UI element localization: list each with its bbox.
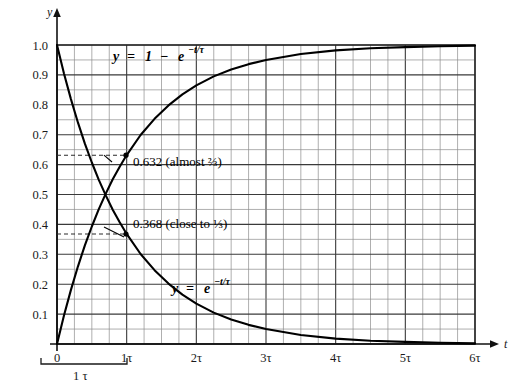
- annotation-label-0368: 0.368 (close to ⅓): [133, 216, 227, 231]
- decay-formula-y: y: [170, 281, 179, 296]
- y-axis-symbol: y: [46, 5, 53, 19]
- y-axis-tick-labels: 0.10.20.30.40.50.60.70.80.91.0: [32, 39, 48, 322]
- rising-formula-y: y: [111, 49, 120, 64]
- rising-curve-formula: y = 1 − e −t/τ: [111, 44, 205, 64]
- decay-formula-exponent: −t/τ: [214, 276, 231, 287]
- rising-formula-one: 1: [145, 49, 152, 64]
- leader-line-0368: [104, 227, 124, 237]
- y-tick-0.2: 0.2: [32, 278, 48, 292]
- x-axis-tick-labels: 01τ2τ3τ4τ5τ6τ: [54, 351, 481, 365]
- bracket-label: 1 τ: [73, 369, 87, 383]
- y-tick-0.8: 0.8: [32, 98, 48, 112]
- decay-formula-equals: =: [186, 281, 194, 296]
- y-tick-0.4: 0.4: [32, 218, 48, 232]
- y-tick-0.9: 0.9: [32, 68, 48, 82]
- decay-formula-e: e: [204, 281, 210, 296]
- rising-formula-equals: =: [127, 49, 135, 64]
- exponential-curves-plot: 0.10.20.30.40.50.60.70.80.91.0 01τ2τ3τ4τ…: [0, 0, 521, 390]
- marker-dot-0368: [123, 231, 128, 236]
- y-tick-0.7: 0.7: [32, 128, 48, 142]
- y-tick-0.3: 0.3: [32, 248, 48, 262]
- x-tick-4: 4τ: [330, 351, 341, 365]
- x-axis-symbol: t: [504, 337, 508, 351]
- y-tick-0.6: 0.6: [32, 158, 48, 172]
- marker-dot-0632: [123, 153, 128, 158]
- rising-formula-minus: −: [160, 49, 168, 64]
- x-axis-arrowhead: [490, 340, 499, 348]
- x-tick-3: 3τ: [260, 351, 271, 365]
- rising-formula-exponent: −t/τ: [188, 44, 205, 55]
- x-tick-2: 2τ: [191, 351, 202, 365]
- x-tick-5: 5τ: [400, 351, 411, 365]
- x-tick-0: 0: [54, 351, 60, 365]
- annotation-label-0632: 0.632 (almost ⅔): [133, 154, 222, 169]
- minor-gridlines: [57, 45, 475, 344]
- y-tick-0.5: 0.5: [32, 188, 48, 202]
- y-tick-0.1: 0.1: [32, 308, 48, 322]
- chart-figure: 0.10.20.30.40.50.60.70.80.91.0 01τ2τ3τ4τ…: [0, 0, 521, 390]
- y-tick-1.0: 1.0: [32, 39, 48, 53]
- rising-formula-e: e: [178, 49, 184, 64]
- leader-line-0632: [104, 155, 112, 162]
- x-tick-6: 6τ: [469, 351, 480, 365]
- y-axis-arrowhead: [53, 8, 61, 17]
